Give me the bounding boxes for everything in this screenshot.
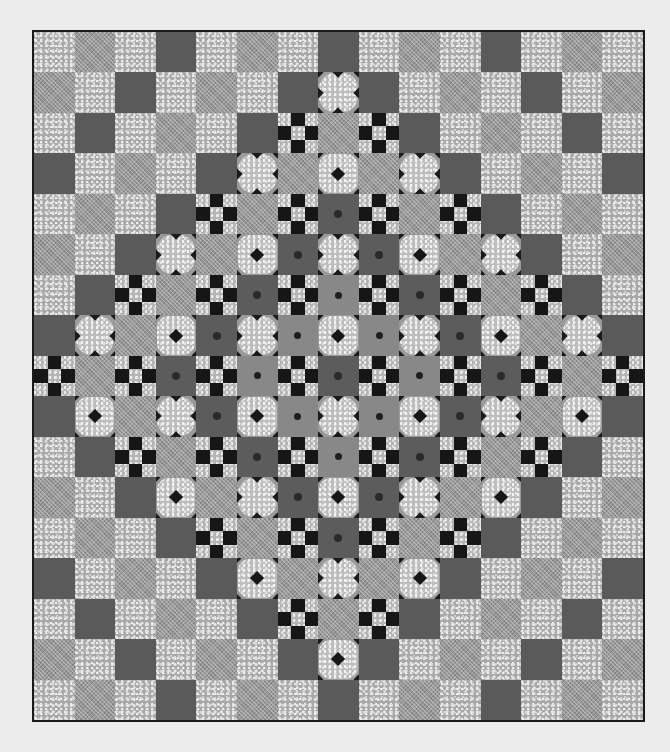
- dark-square-with-center-dot: [359, 477, 400, 517]
- speckled-light-square: [521, 680, 562, 720]
- crosshatch-medium-square: [75, 194, 116, 234]
- nine-patch-block: [278, 599, 319, 639]
- dark-solid-square: [75, 599, 116, 639]
- speckled-light-square: [115, 680, 156, 720]
- speckled-light-square: [602, 680, 643, 720]
- dark-solid-square: [481, 194, 522, 234]
- crosshatch-medium-square: [399, 518, 440, 558]
- speckled-light-square: [481, 72, 522, 112]
- snowball-center: [238, 478, 277, 516]
- dark-square-with-center-dot: [318, 518, 359, 558]
- dark-patch: [372, 545, 386, 558]
- speckled-light-square: [115, 113, 156, 153]
- dark-solid-square: [440, 558, 481, 598]
- crosshatch-square-with-center-dot: [278, 315, 319, 355]
- speckled-light-square: [196, 32, 237, 72]
- dark-patch: [115, 450, 129, 463]
- speckled-light-square: [75, 639, 116, 679]
- dark-patch: [129, 464, 143, 477]
- speckled-light-square: [115, 32, 156, 72]
- dark-patch: [210, 518, 224, 531]
- crosshatch-medium-square: [359, 558, 400, 598]
- dark-patch: [305, 450, 319, 463]
- dark-patch: [359, 369, 373, 382]
- dark-patch: [386, 612, 400, 625]
- snowball-block-with-diamond: [399, 558, 440, 598]
- dark-patch: [291, 464, 305, 477]
- dark-patch: [210, 383, 224, 396]
- dark-patch: [196, 531, 210, 544]
- speckled-light-square: [237, 72, 278, 112]
- speckled-light-square: [34, 194, 75, 234]
- snowball-block-with-notches: [481, 396, 522, 436]
- nine-patch-block: [115, 356, 156, 396]
- snowball-center: [238, 154, 277, 192]
- dark-patch: [372, 221, 386, 234]
- dark-patch: [386, 288, 400, 301]
- quilt: [32, 30, 645, 722]
- speckled-light-square: [602, 113, 643, 153]
- dark-solid-square: [115, 72, 156, 112]
- dark-square-with-center-dot: [399, 275, 440, 315]
- dark-patch: [372, 599, 386, 612]
- snowball-block-with-diamond: [318, 477, 359, 517]
- speckled-light-square: [521, 194, 562, 234]
- snowball-block-with-notches: [481, 234, 522, 274]
- crosshatch-medium-square: [156, 599, 197, 639]
- crosshatch-medium-square: [115, 153, 156, 193]
- speckled-light-square: [34, 437, 75, 477]
- dark-patch: [196, 207, 210, 220]
- dark-patch: [372, 464, 386, 477]
- speckled-light-square: [34, 518, 75, 558]
- crosshatch-medium-square: [602, 72, 643, 112]
- dark-patch: [372, 302, 386, 315]
- dark-patch: [291, 599, 305, 612]
- dark-patch: [454, 302, 468, 315]
- dark-square-with-center-dot: [399, 437, 440, 477]
- dark-solid-square: [481, 680, 522, 720]
- nine-patch-block: [440, 437, 481, 477]
- dark-patch: [210, 545, 224, 558]
- corner-triangle-icon: [481, 396, 486, 401]
- dark-patch: [535, 437, 549, 450]
- dark-solid-square: [278, 72, 319, 112]
- dark-solid-square: [359, 639, 400, 679]
- speckled-light-square: [75, 153, 116, 193]
- snowball-block-with-notches: [75, 315, 116, 355]
- dark-patch: [535, 383, 549, 396]
- dark-patch: [521, 450, 535, 463]
- dark-patch: [115, 288, 129, 301]
- dark-patch: [210, 275, 224, 288]
- nine-patch-block: [521, 437, 562, 477]
- crosshatch-medium-square: [156, 275, 197, 315]
- crosshatch-medium-square: [318, 599, 359, 639]
- dark-patch: [278, 288, 292, 301]
- speckled-light-square: [521, 518, 562, 558]
- speckled-light-square: [196, 113, 237, 153]
- snowball-block-with-diamond: [75, 396, 116, 436]
- dark-patch: [196, 288, 210, 301]
- speckled-light-square: [562, 558, 603, 598]
- dark-patch: [291, 302, 305, 315]
- dark-solid-square: [115, 234, 156, 274]
- crosshatch-medium-square: [440, 72, 481, 112]
- snowball-block-with-notches: [156, 396, 197, 436]
- dark-patch: [223, 369, 237, 382]
- dark-patch: [359, 288, 373, 301]
- snowball-center: [319, 73, 358, 111]
- nine-patch-block: [359, 356, 400, 396]
- nine-patch-block: [521, 275, 562, 315]
- dark-patch: [616, 356, 630, 369]
- snowball-block-with-notches: [318, 72, 359, 112]
- crosshatch-medium-square: [196, 234, 237, 274]
- dark-solid-square: [34, 315, 75, 355]
- crosshatch-square-with-center-dot: [318, 275, 359, 315]
- crosshatch-medium-square: [196, 639, 237, 679]
- dark-patch: [305, 288, 319, 301]
- dark-patch: [467, 207, 481, 220]
- corner-triangle-icon: [562, 315, 567, 320]
- dark-patch: [129, 437, 143, 450]
- speckled-light-square: [115, 194, 156, 234]
- speckled-light-square: [156, 558, 197, 598]
- nine-patch-block: [359, 113, 400, 153]
